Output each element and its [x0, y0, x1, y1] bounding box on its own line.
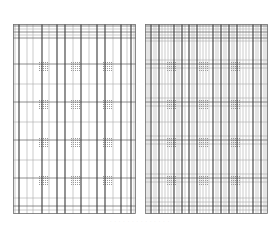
hatched-cell: [71, 176, 80, 185]
hatched-cell: [199, 176, 208, 185]
hatched-cell: [103, 176, 112, 185]
hatched-cell: [231, 100, 240, 109]
hatched-cell: [39, 62, 48, 71]
grid-pattern-sparse: [13, 24, 136, 214]
hatched-cell: [71, 62, 80, 71]
hatched-cell: [103, 62, 112, 71]
hatched-cell: [167, 100, 176, 109]
hatched-cell: [167, 176, 176, 185]
grid-panel-left: [13, 24, 136, 214]
hatched-cell: [39, 100, 48, 109]
hatched-cell: [103, 100, 112, 109]
hatched-cell: [199, 138, 208, 147]
hatched-cell: [231, 62, 240, 71]
hatched-cell: [71, 138, 80, 147]
hatched-cell: [199, 100, 208, 109]
hatched-cell: [167, 62, 176, 71]
hatched-cell: [103, 138, 112, 147]
hatched-cell: [231, 176, 240, 185]
figure-caption: · · · · · · · · · · · · · ·: [0, 219, 280, 224]
hatched-cell: [167, 138, 176, 147]
grid-pattern-dense: [145, 24, 268, 214]
hatched-cell: [39, 176, 48, 185]
hatched-cell: [199, 62, 208, 71]
panel-border: [14, 25, 136, 214]
hatched-cell: [71, 100, 80, 109]
grid-panel-right: [145, 24, 268, 214]
hatched-cell: [39, 138, 48, 147]
hatched-cell: [231, 138, 240, 147]
